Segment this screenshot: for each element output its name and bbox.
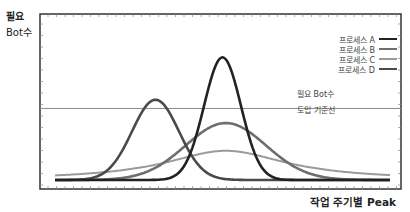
legend-swatch	[379, 48, 397, 50]
series-line-d	[55, 100, 390, 180]
threshold-label-line2: 도입 기준선	[297, 104, 335, 115]
series-line-a	[55, 57, 390, 180]
legend-item-c: 프로세스 C	[331, 54, 397, 64]
legend: 프로세스 A 프로세스 B 프로세스 C 프로세스 D	[331, 34, 397, 74]
y-axis-label-line2: Bot수	[6, 24, 32, 39]
legend-item-b: 프로세스 B	[331, 44, 397, 54]
legend-swatch	[379, 58, 397, 60]
legend-swatch	[379, 38, 397, 40]
y-axis-label-line1: 필요	[6, 8, 24, 23]
legend-item-a: 프로세스 A	[331, 34, 397, 44]
x-axis-label: 작업 주기별 Peak	[310, 194, 396, 209]
threshold-label-line1: 필요 Bot수	[297, 88, 334, 99]
chart-canvas	[0, 0, 410, 212]
legend-item-d: 프로세스 D	[331, 64, 397, 74]
legend-swatch	[379, 68, 397, 70]
series-curves	[55, 57, 390, 180]
legend-label: 프로세스 D	[331, 64, 375, 75]
